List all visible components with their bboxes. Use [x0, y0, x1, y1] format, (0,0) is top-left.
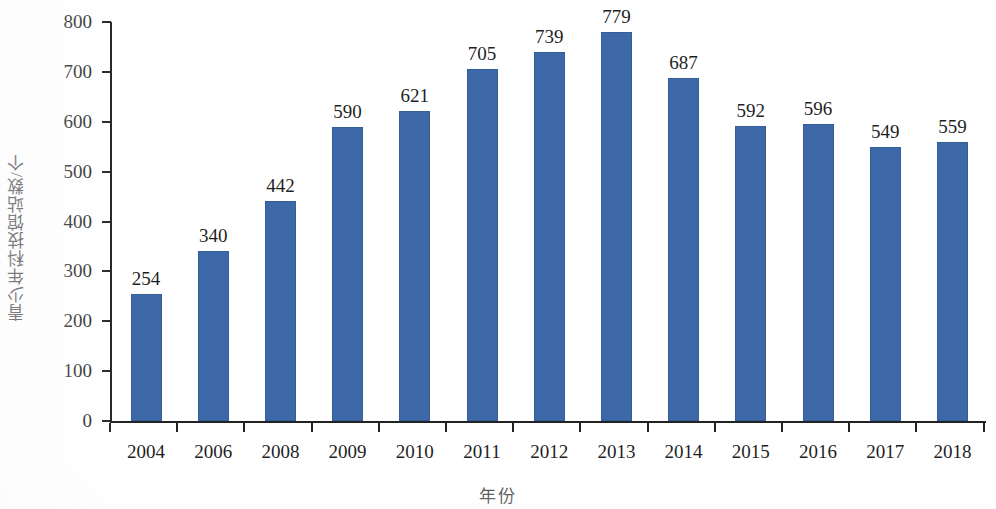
- x-axis-tick-label: 2011: [447, 441, 517, 463]
- bar-value-label: 705: [447, 43, 517, 65]
- bar: [870, 147, 901, 421]
- y-axis-tick-label: 600: [32, 111, 92, 133]
- y-axis-tick: [102, 21, 111, 23]
- bar: [467, 69, 498, 421]
- x-axis-tick: [647, 423, 649, 432]
- y-axis-tick-label: 800: [32, 11, 92, 33]
- bar-value-label: 779: [581, 6, 651, 28]
- x-axis-tick: [848, 423, 850, 432]
- bar: [265, 201, 296, 421]
- scan-texture-overlay: [0, 0, 996, 509]
- y-axis-tick: [102, 370, 111, 372]
- y-axis-tick-label: 0: [32, 410, 92, 432]
- x-axis-tick: [579, 423, 581, 432]
- x-axis-tick-label: 2018: [917, 441, 987, 463]
- bar-value-label: 340: [178, 225, 248, 247]
- x-axis-title: 年份: [0, 482, 996, 507]
- bar: [601, 32, 632, 421]
- y-axis-tick-label: 200: [32, 310, 92, 332]
- bar: [332, 127, 363, 421]
- x-axis-tick-label: 2008: [245, 441, 315, 463]
- x-axis-tick-label: 2009: [313, 441, 383, 463]
- x-axis-tick: [781, 423, 783, 432]
- y-axis-tick-label: 400: [32, 211, 92, 233]
- bar-value-label: 592: [716, 100, 786, 122]
- x-axis-tick: [983, 423, 985, 432]
- bar-value-label: 442: [245, 175, 315, 197]
- bar: [198, 251, 229, 421]
- y-axis-title: 青少年科技馆站数/个: [2, 112, 32, 362]
- bar-value-label: 596: [783, 98, 853, 120]
- y-axis-tick: [102, 171, 111, 173]
- x-axis-tick-label: 2017: [850, 441, 920, 463]
- x-axis-tick-label: 2004: [111, 441, 181, 463]
- y-axis-tick: [102, 71, 111, 73]
- y-axis-tick-label: 300: [32, 260, 92, 282]
- x-axis-tick-label: 2006: [178, 441, 248, 463]
- bar: [937, 142, 968, 421]
- bar: [803, 124, 834, 421]
- x-axis-tick: [915, 423, 917, 432]
- bar: [534, 52, 565, 421]
- x-axis-tick: [378, 423, 380, 432]
- x-axis-tick: [714, 423, 716, 432]
- y-axis-tick: [102, 420, 111, 422]
- y-axis-tick: [102, 270, 111, 272]
- x-axis-tick-label: 2015: [716, 441, 786, 463]
- x-axis-tick: [311, 423, 313, 432]
- y-axis-tick-label: 500: [32, 161, 92, 183]
- x-axis-tick-label: 2016: [783, 441, 853, 463]
- x-axis-tick-label: 2012: [514, 441, 584, 463]
- y-axis-tick: [102, 320, 111, 322]
- bar: [131, 294, 162, 421]
- bar: [735, 126, 766, 421]
- y-axis-tick: [102, 221, 111, 223]
- y-axis-tick-label: 100: [32, 360, 92, 382]
- x-axis-line: [110, 421, 986, 423]
- bar-value-label: 739: [514, 26, 584, 48]
- x-axis-tick-label: 2010: [380, 441, 450, 463]
- y-axis-tick: [102, 121, 111, 123]
- bar-value-label: 549: [850, 121, 920, 143]
- y-axis-line: [110, 22, 112, 423]
- x-axis-tick-label: 2013: [581, 441, 651, 463]
- bar-value-label: 254: [111, 268, 181, 290]
- bar-chart: 青少年科技馆站数/个 0100200300400500600700800 254…: [0, 0, 996, 509]
- x-axis-tick: [243, 423, 245, 432]
- x-axis-tick: [445, 423, 447, 432]
- bar-value-label: 687: [649, 52, 719, 74]
- x-axis-tick: [109, 423, 111, 432]
- x-axis-tick: [512, 423, 514, 432]
- bar: [399, 111, 430, 421]
- x-axis-tick: [176, 423, 178, 432]
- y-axis-tick-label: 700: [32, 61, 92, 83]
- bar-value-label: 621: [380, 85, 450, 107]
- x-axis-tick-label: 2014: [649, 441, 719, 463]
- bar-value-label: 590: [313, 101, 383, 123]
- bar-value-label: 559: [917, 116, 987, 138]
- bar: [668, 78, 699, 421]
